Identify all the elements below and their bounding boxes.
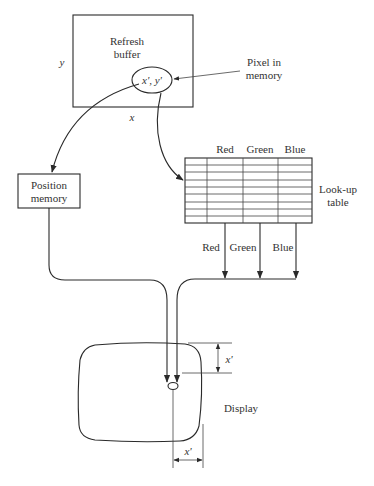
axis-x-label: x: [129, 111, 135, 123]
pixel-label-1: Pixel in: [247, 56, 281, 68]
pixel-pointer-arrow: [174, 71, 240, 79]
position-memory-label-1: Position: [31, 179, 68, 191]
arrow-to-lookup-table: [157, 93, 183, 180]
display-label: Display: [224, 402, 259, 414]
position-memory: Position memory: [18, 174, 80, 208]
lut-outputs: Red Green Blue: [202, 223, 296, 278]
dimension-y: x': [182, 343, 233, 373]
output-green: Green: [230, 241, 257, 253]
pixel-coords: x', y': [141, 74, 163, 86]
offset-y-label: x': [224, 353, 233, 365]
refresh-buffer: Refresh buffer y x: [59, 15, 193, 123]
pixel-in-memory: x', y' Pixel in memory: [132, 56, 283, 93]
lut-col-green: Green: [247, 143, 274, 155]
lut-label-2: table: [327, 196, 348, 208]
color-bus: [177, 279, 296, 382]
pixel-label-2: memory: [246, 69, 283, 81]
refresh-buffer-label-2: buffer: [114, 48, 141, 60]
output-blue: Blue: [273, 241, 294, 253]
lut-col-red: Red: [216, 143, 234, 155]
lookup-table: Red Green Blue Look-up table: [185, 143, 357, 223]
frame-buffer-diagram: Refresh buffer y x x', y' Pixel in memor…: [0, 0, 374, 486]
output-red: Red: [202, 241, 220, 253]
arrow-to-position-memory: [52, 84, 139, 172]
refresh-buffer-label-1: Refresh: [110, 35, 145, 47]
axis-y-label: y: [59, 56, 65, 68]
position-bus: [49, 208, 167, 382]
position-memory-label-2: memory: [31, 192, 68, 204]
lut-label-1: Look-up: [319, 183, 357, 195]
offset-x-label: x': [183, 445, 192, 457]
lut-col-blue: Blue: [285, 143, 306, 155]
